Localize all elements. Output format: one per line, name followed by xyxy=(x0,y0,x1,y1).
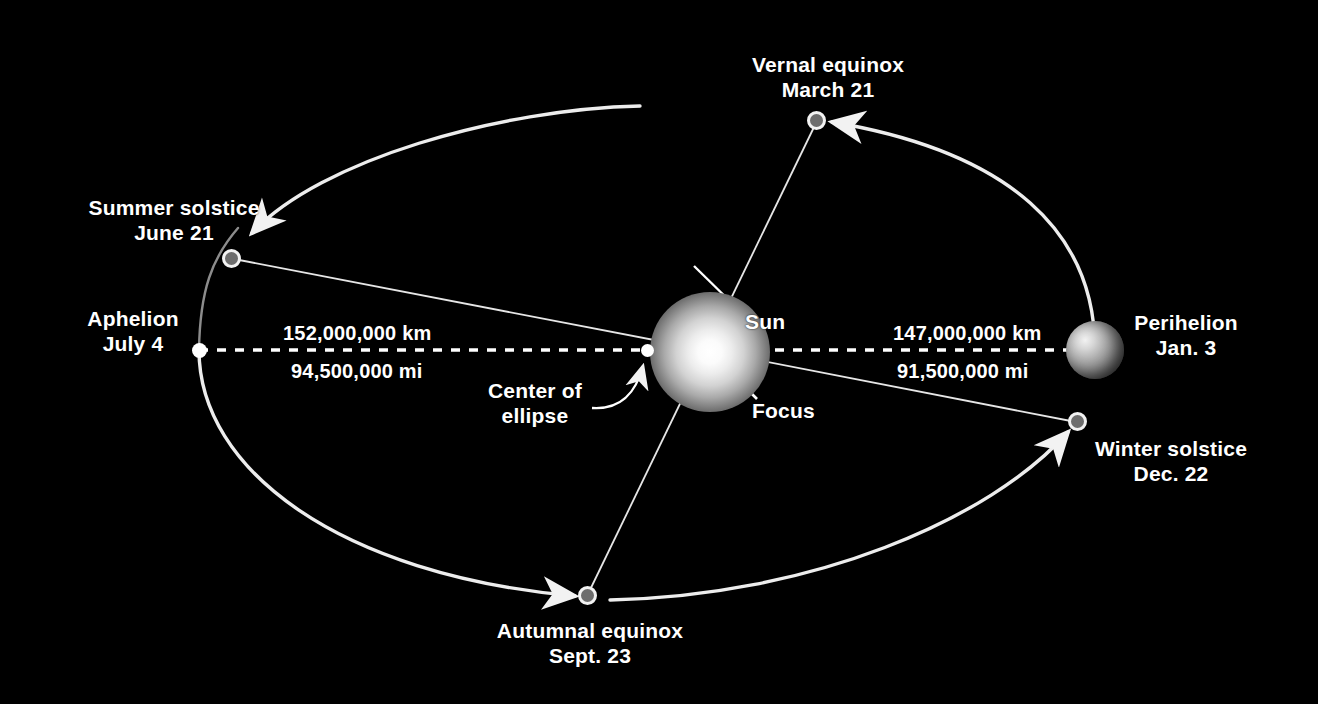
label-center-of-ellipse: Center of ellipse xyxy=(455,378,615,428)
node-summer-solstice[interactable] xyxy=(222,249,241,268)
label-perihelion-date: Jan. 3 xyxy=(1090,335,1282,360)
label-perihelion: Perihelion Jan. 3 xyxy=(1090,310,1282,360)
distance-left-mi: 94,500,000 mi xyxy=(291,360,423,383)
node-autumnal-equinox[interactable] xyxy=(578,586,597,605)
label-winter-solstice: Winter solstice Dec. 22 xyxy=(1031,436,1311,486)
label-summer-solstice-name: Summer solstice xyxy=(39,195,309,220)
label-aphelion-date: July 4 xyxy=(33,331,233,356)
node-vernal-equinox[interactable] xyxy=(807,111,826,130)
label-aphelion: Aphelion July 4 xyxy=(33,306,233,356)
label-vernal-equinox: Vernal equinox March 21 xyxy=(703,52,953,102)
orbit-arc-to-summer-solstice xyxy=(252,106,640,233)
distance-left-km: 152,000,000 km xyxy=(283,322,431,345)
label-autumnal-equinox-name: Autumnal equinox xyxy=(450,618,730,643)
label-winter-solstice-date: Dec. 22 xyxy=(1031,461,1311,486)
orbit-arc-to-winter-solstice xyxy=(610,432,1068,600)
label-sun: Sun xyxy=(745,309,805,334)
label-autumnal-equinox-date: Sept. 23 xyxy=(450,643,730,668)
node-winter-solstice[interactable] xyxy=(1068,412,1087,431)
label-summer-solstice: Summer solstice June 21 xyxy=(39,195,309,245)
label-vernal-equinox-date: March 21 xyxy=(703,77,953,102)
label-aphelion-name: Aphelion xyxy=(33,306,233,331)
label-center-of-ellipse-line2: ellipse xyxy=(455,403,615,428)
orbit-arc-to-vernal-equinox xyxy=(832,122,1095,350)
label-center-of-ellipse-line1: Center of xyxy=(455,378,615,403)
label-autumnal-equinox: Autumnal equinox Sept. 23 xyxy=(450,618,730,668)
label-focus: Focus xyxy=(752,398,842,423)
label-winter-solstice-name: Winter solstice xyxy=(1031,436,1311,461)
distance-right-mi: 91,500,000 mi xyxy=(897,360,1029,383)
node-center-of-ellipse xyxy=(641,344,654,357)
label-perihelion-name: Perihelion xyxy=(1090,310,1282,335)
label-summer-solstice-date: June 21 xyxy=(39,220,309,245)
orbit-diagram: Vernal equinox March 21 Summer solstice … xyxy=(0,0,1318,704)
label-vernal-equinox-name: Vernal equinox xyxy=(703,52,953,77)
distance-right-km: 147,000,000 km xyxy=(893,322,1041,345)
